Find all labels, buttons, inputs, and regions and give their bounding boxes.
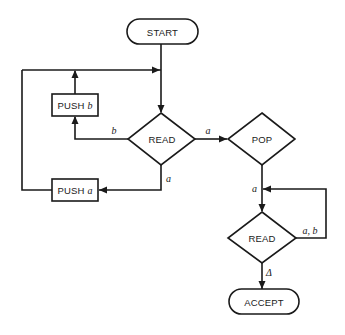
node-read1: READ <box>128 113 195 165</box>
edge-label-read2-loop: a, b <box>303 225 318 236</box>
edge-read1-to-push-a <box>99 165 161 190</box>
node-pop-label: POP <box>252 134 273 145</box>
node-accept-label: ACCEPT <box>244 297 284 308</box>
node-push-b-text: PUSH b <box>57 100 92 111</box>
arrowhead-icon <box>72 70 79 78</box>
node-push-b-label: PUSH <box>57 100 84 111</box>
edge-read1-to-push-b <box>75 117 128 139</box>
edge-label-read2-delta: Δ <box>265 267 272 278</box>
arrowhead-icon <box>259 204 266 212</box>
node-start-label: START <box>147 27 178 38</box>
edge-label-read1-a-right: a <box>206 125 211 136</box>
node-push-a-label: PUSH <box>57 185 84 196</box>
node-push-a-text: PUSH a <box>57 185 92 196</box>
arrowhead-icon <box>72 116 79 124</box>
arrowhead-icon <box>152 67 160 74</box>
pda-flowchart: START READ PUSH b PUSH a POP READ ACCEPT… <box>0 0 345 335</box>
node-pop: POP <box>228 113 295 165</box>
node-push-a-var: a <box>88 185 93 196</box>
node-read1-label: READ <box>148 134 175 145</box>
node-read2-label: READ <box>248 233 275 244</box>
edge-label-pop-a: a <box>252 183 257 194</box>
arrowhead-icon <box>259 281 266 289</box>
arrowhead-icon <box>99 187 107 194</box>
arrowhead-icon <box>263 186 271 193</box>
node-start: START <box>127 19 198 44</box>
edge-label-read1-a-down: a <box>166 173 171 184</box>
node-read2: READ <box>228 212 296 263</box>
arrowhead-icon <box>158 105 165 113</box>
node-push-a: PUSH a <box>52 179 98 201</box>
arrowhead-icon <box>219 136 227 143</box>
node-accept: ACCEPT <box>229 289 299 314</box>
node-push-b: PUSH b <box>52 94 98 116</box>
edge-push-a-to-top <box>22 70 52 190</box>
edge-label-read1-b: b <box>112 125 117 136</box>
node-push-b-var: b <box>88 100 93 111</box>
